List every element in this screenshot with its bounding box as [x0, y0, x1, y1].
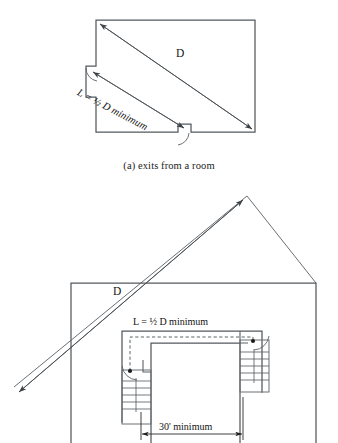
egress-travel-path [130, 337, 253, 371]
roof-right-slope [247, 196, 316, 283]
label-diagonal-d-bottom: D [113, 285, 121, 297]
left-stair-enclosure [122, 370, 151, 424]
roof-left-slope [14, 196, 247, 387]
label-corridor-width-dimension: 30' minimum [159, 421, 212, 432]
building-outline [71, 283, 316, 443]
diagonal-d-line-b-tail [19, 200, 243, 392]
label-separation-l-bottom: L = ½ D minimum [133, 316, 208, 327]
figure-b-drawing [0, 0, 338, 443]
corridor-outer-wall [122, 331, 262, 422]
figure-b-exits-from-a-floor: D L = ½ D minimum 30' minimum [0, 0, 338, 443]
right-stair-door-hinge [251, 339, 255, 343]
left-stair-door-hinge [128, 369, 132, 373]
